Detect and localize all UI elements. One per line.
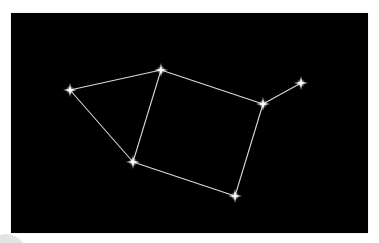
star-icon-C — [256, 97, 270, 111]
constellation-line-B-C — [161, 70, 263, 104]
constellation-lines — [70, 70, 301, 196]
constellation-line-B-E — [133, 70, 161, 162]
star-icon-B — [154, 63, 168, 77]
constellation-line-F-C — [235, 104, 263, 196]
star-icon-D — [294, 76, 308, 90]
constellation-diagram — [0, 0, 379, 243]
constellation-line-C-D — [263, 83, 301, 104]
star-icon-F — [228, 189, 242, 203]
constellation-line-E-F — [133, 162, 235, 196]
constellation-line-A-B — [70, 70, 161, 90]
diagram-stage — [0, 0, 379, 243]
constellation-line-A-E — [70, 90, 133, 162]
